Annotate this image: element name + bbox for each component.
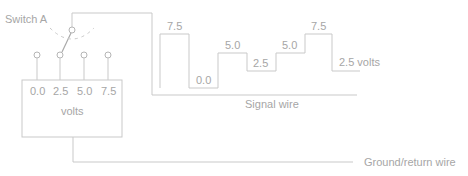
level-label-0: 7.5: [167, 20, 182, 32]
terminal-2-5v: [57, 52, 63, 58]
terminal-0v: [34, 52, 40, 58]
voltage-switch-diagram: Switch A 0.0 2.5 5.0 7.5 volts 7.5 0.0 5…: [0, 0, 468, 176]
switch-label: Switch A: [5, 13, 48, 25]
ground-wire-label: Ground/return wire: [364, 156, 456, 168]
level-label-5: 7.5: [311, 20, 326, 32]
level-label-3: 2.5: [253, 57, 268, 69]
switch-terminals: [34, 52, 111, 80]
level-label-1: 0.0: [196, 74, 211, 86]
level-label-6: 2.5 volts: [339, 56, 380, 68]
terminal-label-1: 2.5: [53, 85, 68, 97]
switch-pivot-terminal: [69, 27, 75, 33]
signal-wire-label: Signal wire: [245, 98, 299, 110]
terminal-5v: [81, 52, 87, 58]
terminal-7-5v: [105, 52, 111, 58]
ground-wire: [73, 137, 353, 162]
terminal-label-3: 7.5: [101, 85, 116, 97]
level-label-4: 5.0: [282, 39, 297, 51]
switch-lever: [62, 33, 71, 52]
level-label-2: 5.0: [225, 39, 240, 51]
box-unit-label: volts: [61, 105, 84, 117]
terminal-label-2: 5.0: [77, 85, 92, 97]
terminal-label-0: 0.0: [30, 85, 45, 97]
